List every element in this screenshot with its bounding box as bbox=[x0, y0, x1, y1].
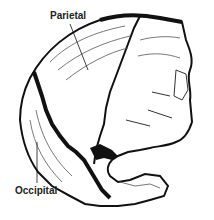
parietal-label: Parietal bbox=[50, 10, 86, 21]
occipital-label: Occipital bbox=[15, 185, 57, 196]
